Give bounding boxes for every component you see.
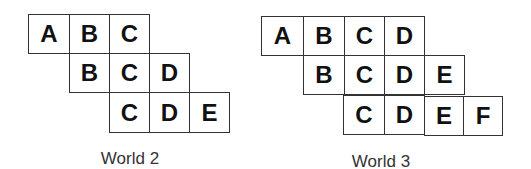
- cell: A: [261, 16, 304, 56]
- cell: E: [424, 96, 464, 136]
- cell: D: [149, 53, 190, 93]
- cell: D: [384, 55, 425, 95]
- cell: A: [28, 14, 70, 54]
- cell: D: [384, 16, 425, 56]
- cell: F: [463, 96, 503, 136]
- cell: C: [343, 95, 385, 135]
- cell: B: [69, 14, 110, 54]
- cell: E: [424, 55, 465, 95]
- cell: D: [149, 92, 190, 133]
- cell: B: [303, 55, 345, 95]
- cell: C: [344, 16, 385, 56]
- cell: B: [69, 53, 110, 93]
- cell: C: [109, 92, 150, 133]
- world-2-caption: World 2: [101, 149, 159, 169]
- cell: E: [189, 92, 230, 133]
- cell: B: [303, 16, 345, 56]
- world-3-caption: World 3: [352, 152, 410, 169]
- cell: D: [384, 95, 425, 135]
- cell: C: [109, 53, 150, 93]
- cell: C: [109, 14, 150, 54]
- cell: C: [344, 55, 385, 95]
